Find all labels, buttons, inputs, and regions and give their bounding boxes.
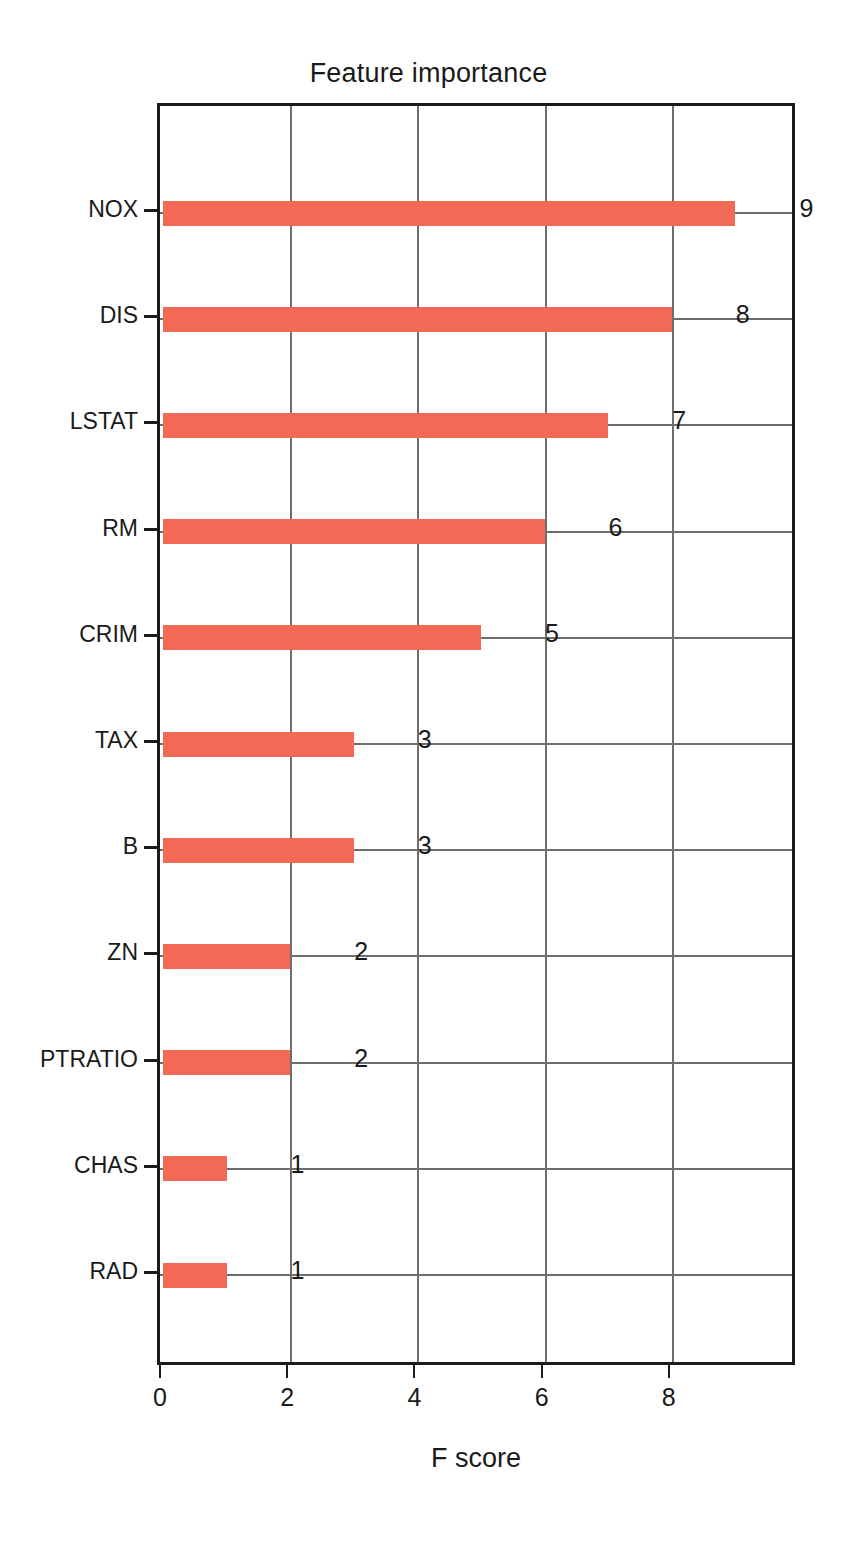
x-axis-tick-label-0: 0 (153, 1385, 167, 1410)
x-axis-tick-label-8: 8 (662, 1385, 676, 1410)
y-axis-label-zn: ZN (107, 941, 138, 964)
y-axis-label-b: B (123, 835, 138, 858)
bar-nox[interactable] (163, 201, 735, 226)
x-axis-tick (541, 1365, 543, 1378)
y-axis-tick (144, 209, 158, 212)
y-axis-tick (144, 740, 158, 743)
y-axis-tick (144, 846, 158, 849)
bar-value-label-dis: 8 (736, 302, 750, 327)
feature-importance-chart: Feature importance NOXDISLSTATRMCRIMTAXB… (0, 0, 857, 1545)
y-axis-tick (144, 1059, 158, 1062)
y-axis-label-chas: CHAS (74, 1154, 138, 1177)
y-axis-label-nox: NOX (88, 198, 138, 221)
bar-value-label-rad: 1 (291, 1258, 305, 1283)
y-axis-labels: NOXDISLSTATRMCRIMTAXBZNPTRATIOCHASRAD (0, 0, 138, 1545)
bar-value-label-rm: 6 (609, 515, 623, 540)
vertical-gridline (672, 106, 674, 1362)
bar-value-label-lstat: 7 (672, 408, 686, 433)
bar-rad[interactable] (163, 1263, 227, 1288)
x-axis-tick (668, 1365, 670, 1378)
bar-value-label-ptratio: 2 (354, 1046, 368, 1071)
y-axis-tick (144, 315, 158, 318)
bar-value-label-b: 3 (418, 833, 432, 858)
plot-area (157, 103, 795, 1365)
x-axis-title: F score (157, 1443, 795, 1474)
y-axis-label-crim: CRIM (79, 623, 138, 646)
y-axis-tick (144, 421, 158, 424)
bar-value-label-chas: 1 (291, 1152, 305, 1177)
vertical-gridline (545, 106, 547, 1362)
bar-rm[interactable] (163, 519, 545, 544)
y-axis-label-ptratio: PTRATIO (40, 1048, 138, 1071)
x-axis-tick-label-6: 6 (535, 1385, 549, 1410)
y-axis-label-lstat: LSTAT (70, 410, 138, 433)
horizontal-gridline (160, 1168, 792, 1170)
y-axis-tick (144, 634, 158, 637)
y-axis-label-dis: DIS (100, 304, 138, 327)
y-axis-tick (144, 528, 158, 531)
y-axis-label-rm: RM (102, 517, 138, 540)
x-axis-tick-label-4: 4 (407, 1385, 421, 1410)
bar-lstat[interactable] (163, 413, 608, 438)
bar-dis[interactable] (163, 307, 672, 332)
bar-value-label-crim: 5 (545, 621, 559, 646)
bar-crim[interactable] (163, 625, 481, 650)
horizontal-gridline (160, 1274, 792, 1276)
y-axis-label-rad: RAD (89, 1260, 138, 1283)
bar-value-label-nox: 9 (799, 196, 813, 221)
bar-b[interactable] (163, 838, 354, 863)
bar-tax[interactable] (163, 732, 354, 757)
x-axis-tick (413, 1365, 415, 1378)
y-axis-tick (144, 952, 158, 955)
x-axis-tick-label-2: 2 (280, 1385, 294, 1410)
x-axis-tick (159, 1365, 161, 1378)
x-axis-tick (286, 1365, 288, 1378)
bar-value-label-tax: 3 (418, 727, 432, 752)
y-axis-label-tax: TAX (95, 729, 138, 752)
y-axis-tick (144, 1271, 158, 1274)
bar-chas[interactable] (163, 1156, 227, 1181)
bar-ptratio[interactable] (163, 1050, 290, 1075)
bar-zn[interactable] (163, 944, 290, 969)
bar-value-label-zn: 2 (354, 939, 368, 964)
y-axis-tick (144, 1165, 158, 1168)
